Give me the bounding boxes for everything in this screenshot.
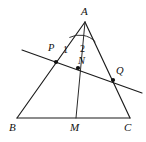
label-angle-1: 1 (63, 45, 68, 55)
point-dot-p (54, 60, 58, 64)
label-point-p: P (48, 43, 54, 54)
label-point-q: Q (116, 66, 124, 77)
segment-ab (17, 22, 85, 118)
point-dot-n (76, 66, 80, 70)
label-point-n: N (78, 56, 85, 67)
label-vertex-b: B (9, 122, 16, 133)
label-vertex-a: A (81, 6, 88, 17)
label-angle-2: 2 (80, 44, 85, 54)
label-point-m: M (70, 122, 79, 133)
label-vertex-c: C (124, 122, 131, 133)
geometry-figure: A B C M P Q N 1 2 (0, 0, 146, 142)
point-dot-q (111, 78, 115, 82)
